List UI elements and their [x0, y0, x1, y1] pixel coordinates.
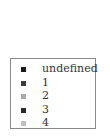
legend-swatch	[21, 81, 26, 86]
chart-legend: undefined1234	[10, 58, 96, 129]
legend-label: 1	[42, 76, 49, 90]
legend-swatch	[21, 121, 26, 126]
legend-label: 2	[42, 89, 49, 103]
legend-item: undefined	[11, 63, 95, 76]
legend-item: 1	[11, 77, 95, 90]
legend-item: 2	[11, 90, 95, 103]
legend-item: 4	[11, 117, 95, 130]
legend-swatch	[21, 108, 26, 113]
legend-label: 3	[42, 103, 49, 117]
legend-swatch	[21, 67, 26, 72]
legend-label: undefined	[42, 62, 98, 76]
legend-swatch	[21, 94, 26, 99]
legend-label: 4	[42, 116, 49, 130]
legend-item: 3	[11, 104, 95, 117]
